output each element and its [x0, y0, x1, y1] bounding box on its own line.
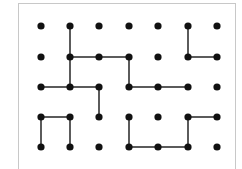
grid-dot — [213, 143, 220, 150]
grid-dot — [154, 22, 161, 29]
grid-dot — [95, 53, 102, 60]
grid-dot — [66, 113, 73, 120]
grid-dot — [154, 83, 161, 90]
grid-dot — [66, 53, 73, 60]
grid-dot — [213, 53, 220, 60]
grid-dot — [125, 83, 132, 90]
grid-dot — [95, 22, 102, 29]
grid-dot — [184, 143, 191, 150]
grid-dot — [125, 53, 132, 60]
grid-dot — [184, 83, 191, 90]
grid-dot — [66, 143, 73, 150]
grid-dot — [95, 143, 102, 150]
grid-dot — [95, 113, 102, 120]
grid-dot — [213, 22, 220, 29]
grid-dot — [37, 83, 44, 90]
grid-dot — [184, 22, 191, 29]
grid-dot — [154, 113, 161, 120]
grid-dot — [125, 113, 132, 120]
grid-dot — [66, 22, 73, 29]
grid-dot — [213, 83, 220, 90]
grid-dot — [66, 83, 73, 90]
grid-dot — [95, 83, 102, 90]
grid-dot — [213, 113, 220, 120]
grid-dot — [125, 22, 132, 29]
grid-dot — [37, 22, 44, 29]
grid-dot — [37, 113, 44, 120]
dot-grid-diagram — [0, 0, 242, 169]
grid-dot — [37, 143, 44, 150]
grid-dot — [37, 53, 44, 60]
grid-dot — [184, 53, 191, 60]
grid-dot — [184, 113, 191, 120]
grid-dot — [154, 143, 161, 150]
grid-dot — [125, 143, 132, 150]
grid-dot — [154, 53, 161, 60]
